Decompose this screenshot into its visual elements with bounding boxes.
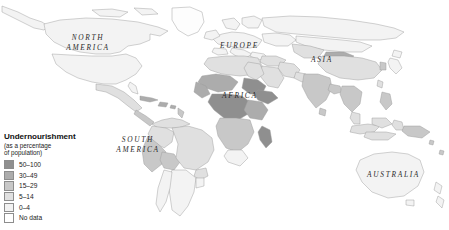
legend-swatch-no-data: [4, 213, 14, 223]
legend-item-50-100: 50–100: [4, 159, 78, 169]
legend-subtitle: (as a percentage of population): [4, 142, 78, 156]
legend-swatch-5-14: [4, 192, 14, 202]
island-tasmania: [406, 200, 414, 206]
legend-label-5-14: 5–14: [19, 192, 34, 202]
legend-item-0-4: 0–4: [4, 202, 78, 212]
legend-swatch-50-100: [4, 160, 14, 170]
legend-item-15-29: 15–29: [4, 181, 78, 191]
legend-swatch-30-49: [4, 171, 14, 181]
korean-peninsula: [380, 62, 386, 70]
country-uruguay: [196, 178, 204, 188]
legend-label-no-data: No data: [19, 213, 42, 223]
legend-item-5-14: 5–14: [4, 191, 78, 201]
world-map: .cy{stroke:#9a9a9a;stroke-width:0.45;vec…: [0, 0, 449, 230]
island-solomon: [429, 140, 434, 145]
legend-label-50-100: 50–100: [19, 160, 41, 170]
legend-subtitle-line1: (as a percentage: [4, 142, 78, 149]
legend-label-0-4: 0–4: [19, 203, 30, 213]
map-legend: Undernourishment (as a percentage of pop…: [2, 132, 78, 224]
legend-item-30-49: 30–49: [4, 170, 78, 180]
island-fiji: [439, 150, 444, 155]
legend-swatch-0-4: [4, 203, 14, 213]
legend-label-15-29: 15–29: [19, 181, 37, 191]
legend-item-no-data: No data: [4, 213, 78, 223]
legend-title: Undernourishment: [4, 132, 78, 142]
puerto-rico: [170, 105, 176, 109]
hispaniola: [158, 102, 168, 107]
legend-swatch-15-29: [4, 181, 14, 191]
legend-label-30-49: 30–49: [19, 171, 37, 181]
legend-subtitle-line2: of population): [4, 149, 78, 156]
